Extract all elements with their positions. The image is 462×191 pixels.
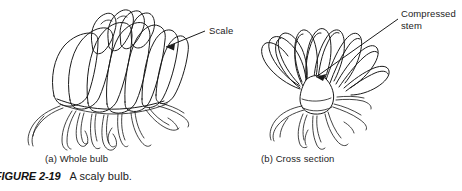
- callout-label-scale: Scale: [209, 25, 233, 37]
- callout-label-compressed-line2: stem: [401, 20, 422, 31]
- figure-caption-number: FIGURE 2-19: [0, 170, 61, 182]
- bulb-whole-illustration: [28, 10, 189, 150]
- panel-caption-a: (a) Whole bulb: [45, 153, 108, 165]
- figure-caption-text: A scaly bulb.: [70, 170, 132, 182]
- bulb-cross-section-illustration: [262, 29, 390, 150]
- figure-scaly-bulb: Scale Compressedstem (a) Whole bulb (b) …: [0, 0, 462, 191]
- figure-caption: FIGURE 2-19 A scaly bulb.: [0, 170, 132, 182]
- callout-label-compressed-line1: Compressed: [401, 8, 456, 19]
- callout-label-compressed-stem: Compressedstem: [401, 8, 456, 31]
- panel-caption-b: (b) Cross section: [261, 153, 335, 165]
